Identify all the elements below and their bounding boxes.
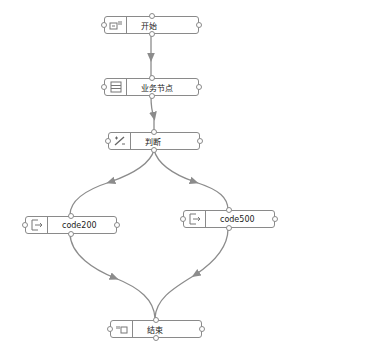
edge-judge-code500 (154, 150, 228, 210)
port-bottom[interactable] (149, 31, 155, 37)
node-label: 结束 (133, 324, 201, 335)
port-left[interactable] (101, 84, 107, 90)
node-label: 开始 (127, 20, 198, 31)
edges-layer (0, 0, 368, 356)
port-top[interactable] (149, 13, 155, 19)
node-end[interactable]: 结束 (110, 320, 202, 338)
form-icon (105, 79, 127, 95)
port-left[interactable] (107, 326, 113, 332)
exit-icon (184, 211, 206, 227)
node-label: code500 (206, 215, 274, 224)
node-judge[interactable]: 判断 (108, 132, 200, 150)
port-right[interactable] (196, 84, 202, 90)
port-left[interactable] (22, 222, 28, 228)
port-left[interactable] (105, 138, 111, 144)
end-icon (111, 321, 133, 337)
port-bottom[interactable] (149, 93, 155, 99)
port-right[interactable] (197, 138, 203, 144)
edge-code500-end (155, 229, 228, 318)
node-label: 业务节点 (127, 82, 198, 93)
edge-business-judge (151, 96, 154, 130)
node-start[interactable]: 开始 (104, 16, 199, 34)
port-top[interactable] (149, 75, 155, 81)
edge-code200-end (70, 233, 155, 318)
node-code200[interactable]: code200 (25, 216, 117, 234)
port-right[interactable] (114, 222, 120, 228)
start-icon (105, 17, 127, 33)
node-label: code200 (48, 221, 116, 230)
port-top[interactable] (151, 129, 157, 135)
port-top[interactable] (226, 207, 232, 213)
node-code500[interactable]: code500 (183, 210, 275, 228)
port-left[interactable] (180, 216, 186, 222)
port-right[interactable] (196, 22, 202, 28)
exit-icon (26, 217, 48, 233)
edge-judge-code200 (70, 150, 154, 215)
port-right[interactable] (272, 216, 278, 222)
port-left[interactable] (101, 22, 107, 28)
port-bottom[interactable] (153, 335, 159, 341)
port-top[interactable] (68, 213, 74, 219)
port-bottom[interactable] (226, 225, 232, 231)
node-business[interactable]: 业务节点 (104, 78, 199, 96)
port-top[interactable] (153, 317, 159, 323)
node-label: 判断 (131, 136, 199, 147)
port-bottom[interactable] (151, 147, 157, 153)
port-bottom[interactable] (68, 231, 74, 237)
percent-condition-icon (109, 133, 131, 149)
port-right[interactable] (199, 326, 205, 332)
